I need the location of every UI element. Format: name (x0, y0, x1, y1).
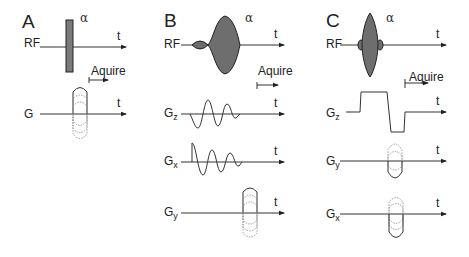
gz-axis-t: t (274, 96, 278, 110)
sinc-sidelobe-shape (192, 41, 208, 49)
gz-row-label: Gz (164, 106, 178, 122)
rf-mainlobe-shape (362, 13, 378, 77)
rf-row-label: RF (24, 36, 40, 50)
rf-axis-t: t (436, 27, 440, 41)
acquire-label: Aquire (258, 64, 293, 78)
gz-row-label: Gz (326, 106, 340, 122)
panel-a: A α RF t Aquire G t (22, 11, 126, 139)
panel-b-flip-angle: α (245, 11, 253, 25)
pulse-sequence-diagram: A α RF t Aquire G t B α RF t (0, 0, 469, 257)
panel-c-label: C (326, 10, 340, 31)
rf-row-label: RF (326, 37, 342, 51)
gx-row-label: Gx (164, 154, 178, 170)
panel-a-label: A (22, 11, 35, 32)
gz-axis-t: t (436, 94, 440, 108)
panel-c-flip-angle: α (386, 11, 394, 25)
phase-encode-lobes (389, 198, 403, 238)
gy-row-label: Gy (326, 154, 340, 170)
hard-pulse-rect (66, 20, 73, 72)
gy-row-label: Gy (164, 205, 178, 221)
gx-row-label: Gx (326, 207, 340, 223)
gx-oscillation-waveform (192, 143, 242, 175)
panel-a-flip-angle: α (80, 11, 88, 25)
rf-row-label: RF (164, 37, 180, 51)
panel-b: B α RF t Aquire Gz t Gx t Gy t (164, 10, 293, 237)
g-row-label: G (24, 107, 33, 121)
rf-axis-t: t (117, 29, 121, 43)
gx-axis-t: t (436, 196, 440, 210)
panel-b-label: B (164, 10, 177, 31)
g-axis-t: t (117, 96, 121, 110)
sinc-mainlobe-shape (208, 16, 240, 74)
panel-c: C α RF t Aquire Gz t Gy t Gx t (326, 10, 446, 238)
acquire-label: Aquire (91, 64, 126, 78)
acquire-label: Aquire (409, 70, 444, 84)
gx-axis-t: t (274, 144, 278, 158)
gy-axis-t: t (274, 195, 278, 209)
rf-axis-t: t (274, 27, 278, 41)
phase-encode-lobes (73, 88, 87, 139)
gy-axis-t: t (436, 143, 440, 157)
gz-trapezoid-waveform (360, 92, 405, 132)
